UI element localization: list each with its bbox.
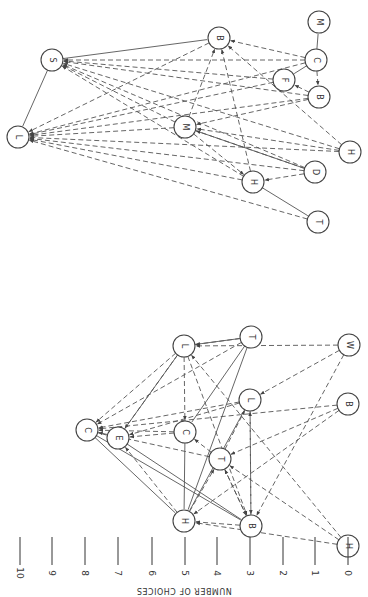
upper-edge-dashed [231,41,306,58]
sociogram-figure: LSMBFCMBHDHT CELTCLTWBHBH 109876543210 N… [0,0,368,597]
node-label: L [246,398,255,403]
upper-node-b: B [208,27,230,49]
upper-edge-dashed [197,99,309,124]
scale-tick-6: 6 [147,537,157,576]
lower-node-l: L [239,389,261,411]
scale-tick-3: 3 [245,537,255,576]
upper-edge-dashed [265,174,304,180]
lower-node-h: H [173,510,195,532]
scale-tick-8: 8 [80,537,90,576]
upper-edge-dashed [30,128,174,137]
tick-label: 6 [147,570,157,576]
upper-edge-dashed [222,50,251,172]
upper-edge-solid [262,188,307,216]
node-label: H [249,179,258,185]
node-label: C [181,429,190,435]
scale-tick-7: 7 [113,537,123,576]
lower-edge-dashed [188,356,247,515]
upper-node-d: D [304,161,326,183]
upper-node-b: B [308,86,330,108]
node-label: T [247,334,256,340]
upper-edge-solid [63,40,207,59]
lower-node-b: B [337,393,359,415]
lower-node-b: B [240,515,262,537]
node-label: W [345,341,354,349]
upper-node-f: F [273,69,295,91]
node-label: B [247,523,256,529]
lower-node-l: L [173,335,195,357]
lower-edge-dashed [99,405,337,429]
lower-edge-solid [188,347,247,509]
node-label: T [216,456,225,462]
lower-edge-dashed [196,345,338,346]
upper-node-c: C [305,49,327,71]
node-label: H [180,518,189,524]
scale-tick-4: 4 [212,537,222,576]
upper-node-m: M [308,11,330,33]
lower-edge-dashed [192,355,341,537]
lower-edge-dashed [130,433,174,437]
node-label: C [83,427,92,433]
scale-tick-9: 9 [47,537,57,576]
lower-node-w: W [338,334,360,356]
node-label: C [312,57,321,63]
upper-edge-dashed [197,129,339,151]
tick-label: 9 [47,570,57,576]
node-label: B [215,35,224,41]
upper-edge-dashed [295,85,309,92]
upper-sociogram-nodes: LSMBFCMBHDHT [7,11,361,233]
node-label: L [180,344,189,349]
node-label: M [181,124,190,131]
node-label: E [114,435,123,440]
lower-node-t: T [209,448,231,470]
tick-label: 0 [343,570,353,576]
node-label: B [344,401,353,407]
scale-tick-5: 5 [180,537,190,576]
scale-title: NUMBER OF CHOICES [136,586,231,595]
lower-node-e: E [107,427,129,449]
upper-edge-dashed [30,138,339,152]
upper-node-h: H [242,171,264,193]
lower-node-c: C [76,419,98,441]
node-label: H [346,149,355,155]
lower-edge-dashed [231,408,338,454]
lower-edge-dashed [195,439,212,452]
upper-edge-solid [317,34,318,49]
upper-edge-dashed [63,65,176,122]
tick-label: 5 [180,570,190,576]
node-label: S [48,57,57,62]
lower-edge-dashed [97,342,241,424]
scale-tick-2: 2 [278,537,288,576]
node-label: F [280,78,289,83]
upper-edge-dashed [30,140,308,219]
lower-sociogram-nodes: CELTCLTWBHBH [76,326,360,557]
lower-edge-dashed [261,350,340,394]
upper-edge-dashed [64,64,340,149]
lower-node-t: T [240,326,262,348]
upper-edge-dashed [30,82,274,134]
tick-label: 2 [278,570,288,576]
number-of-choices-scale: 109876543210 [15,537,353,579]
tick-label: 1 [310,570,320,576]
lower-edge-solid [184,443,185,509]
node-label: L [14,135,23,140]
upper-node-m: M [174,116,196,138]
lower-sociogram-edges [95,339,344,545]
node-label: B [315,94,324,100]
lower-edge-solid [195,339,239,345]
tick-label: 8 [80,570,90,576]
upper-node-l: L [7,126,29,148]
tick-label: 3 [245,570,255,576]
upper-edge-dashed [30,98,308,135]
upper-node-s: S [41,49,63,71]
tick-label: 10 [15,567,25,579]
lower-edge-dashed [99,402,239,428]
node-label: M [315,19,324,26]
tick-label: 4 [212,570,222,576]
upper-edge-dashed [30,63,306,134]
upper-node-h: H [339,141,361,163]
node-label: D [311,169,320,175]
node-label: T [314,219,323,225]
upper-edge-solid [23,70,48,126]
lower-edge-dashed [184,357,185,420]
